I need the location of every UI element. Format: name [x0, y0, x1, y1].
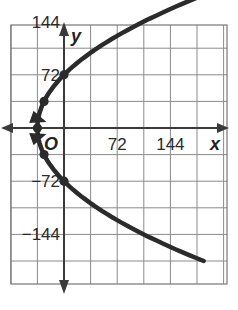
y-tick-label: −72	[31, 172, 60, 191]
y-axis-label: y	[70, 26, 82, 46]
x-axis-label: x	[209, 134, 221, 154]
parabola-curve	[37, 0, 203, 261]
x-tick-label: 72	[108, 135, 127, 154]
axes	[1, 22, 229, 294]
y-tick-label: −144	[22, 225, 60, 244]
origin-label: O	[44, 134, 58, 154]
x-tick-label: 144	[156, 135, 184, 154]
y-tick-label: 144	[32, 13, 60, 32]
y-tick-label: 72	[41, 66, 60, 85]
parabola-graph: 7214414472−72−144 x y O	[0, 0, 238, 310]
